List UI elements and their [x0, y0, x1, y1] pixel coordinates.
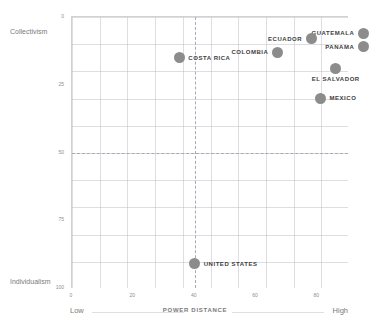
data-point-label: GUATEMALA: [311, 30, 354, 36]
data-point-label: EL SALVADOR: [312, 76, 360, 82]
x-axis-tick-label: 20: [130, 292, 136, 298]
data-point[interactable]: [315, 93, 326, 104]
y-axis-tick-label: 50: [58, 149, 64, 155]
data-point-label: MEXICO: [329, 95, 356, 101]
data-point-label: COLOMBIA: [231, 49, 268, 55]
data-point[interactable]: [189, 258, 200, 269]
y-axis-tick-label: 25: [58, 81, 64, 87]
data-point[interactable]: [358, 28, 369, 39]
x-axis-title: POWER DISTANCE: [163, 307, 227, 313]
x-axis-tick-label: 80: [314, 292, 320, 298]
data-point-label: ECUADOR: [268, 36, 302, 42]
plot-area: GUATEMALAECUADORPANAMACOLOMBIAEL SALVADO…: [71, 16, 348, 288]
data-point[interactable]: [306, 33, 317, 44]
data-point-label: COSTA RICA: [188, 55, 230, 61]
x-axis-tick-label: 40: [191, 292, 197, 298]
data-point[interactable]: [174, 52, 185, 63]
data-point-label: PANAMA: [325, 44, 354, 50]
x-axis-high-label: High: [333, 306, 348, 315]
x-axis-low-label: Low: [70, 306, 84, 315]
caption-rule-right: [232, 312, 324, 313]
data-point[interactable]: [272, 47, 283, 58]
y-axis-ticks: 0255075100: [0, 16, 68, 288]
y-axis-tick-label: 100: [56, 284, 64, 290]
quadrant-divider-horizontal: [72, 153, 348, 154]
x-axis-ticks: 020406080: [71, 292, 348, 302]
data-point[interactable]: [330, 63, 341, 74]
y-axis-tick-label: 75: [58, 216, 64, 222]
data-point[interactable]: [358, 41, 369, 52]
x-axis-tick-label: 0: [70, 292, 73, 298]
x-axis-caption: Low POWER DISTANCE High: [40, 306, 350, 320]
x-axis-tick-label: 60: [252, 292, 258, 298]
y-axis-tick-label: 0: [61, 13, 64, 19]
data-point-label: UNITED STATES: [204, 261, 258, 267]
